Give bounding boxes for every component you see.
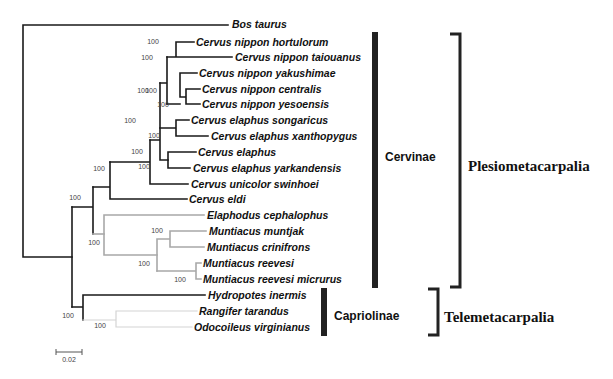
taxon-label: Hydropotes inermis <box>208 289 307 301</box>
taxon-labels: Bos taurusCervus nippon hortulorumCervus… <box>189 18 361 333</box>
taxon-label: Cervus nippon yakushimae <box>199 67 336 79</box>
branch <box>150 83 168 160</box>
scale-bar: 0.02 <box>56 349 82 363</box>
support-value: 100 <box>148 132 160 139</box>
clade-bar <box>372 32 378 288</box>
group-bracket <box>428 289 438 335</box>
taxon-label: Cervus nippon yesoensis <box>202 98 329 110</box>
taxon-label: Elaphodus cephalophus <box>207 209 329 221</box>
branch <box>104 215 204 255</box>
support-value: 100 <box>157 101 169 108</box>
taxon-label: Cervus nippon hortulorum <box>196 36 328 48</box>
taxon-label: Rangifer tarandus <box>199 305 289 317</box>
support-value: 100 <box>88 239 100 246</box>
taxon-label: Odocoileus virginianus <box>194 321 310 333</box>
branch <box>110 140 188 184</box>
support-value: 100 <box>145 87 157 94</box>
branch <box>168 152 196 168</box>
taxon-label: Cervus nippon centralis <box>202 83 322 95</box>
taxon-label: Cervus elaphus songaricus <box>191 114 328 126</box>
support-value: 100 <box>131 148 143 155</box>
branch <box>157 231 206 271</box>
support-value: 100 <box>93 165 105 172</box>
support-value: 100 <box>151 227 163 234</box>
support-value: 100 <box>124 117 136 124</box>
support-value: 100 <box>69 194 81 201</box>
clade-label: Capriolinae <box>334 309 400 323</box>
branch <box>72 295 205 320</box>
support-value: 100 <box>62 312 74 319</box>
taxon-label: Cervus unicolor swinhoei <box>191 178 320 190</box>
group-label: Telemetacarpalia <box>444 309 555 325</box>
support-value: 100 <box>138 260 150 267</box>
branch <box>167 73 200 104</box>
clade-bar <box>321 288 327 336</box>
taxon-label: Muntiacus reevesi micrurus <box>203 273 342 285</box>
support-value: 100 <box>174 276 186 283</box>
taxon-label: Cervus nippon taiouanus <box>235 51 361 63</box>
scale-bar-label: 0.02 <box>62 356 76 363</box>
branch <box>23 25 228 257</box>
taxon-label: Muntiacus crinifrons <box>207 241 310 253</box>
taxon-label: Muntiacus muntjak <box>209 225 305 237</box>
support-value: 100 <box>147 38 159 45</box>
taxon-label: Cervus eldi <box>189 193 247 205</box>
support-value: 100 <box>141 54 153 61</box>
group-bracket <box>450 34 460 287</box>
support-value: 100 <box>138 163 150 170</box>
taxon-label: Bos taurus <box>232 18 287 30</box>
subfamily-clade-bars: CervinaeCapriolinae <box>321 32 436 336</box>
group-label: Plesiometacarpalia <box>468 158 590 174</box>
taxon-label: Cervus elaphus <box>198 146 276 158</box>
group-brackets: PlesiometacarpaliaTelemetacarpalia <box>428 34 590 335</box>
taxon-label: Cervus elaphus yarkandensis <box>193 162 341 174</box>
branch <box>160 57 167 104</box>
scale-bar-line <box>56 349 82 355</box>
taxon-label: Muntiacus reevesi <box>203 257 295 269</box>
clade-label: Cervinae <box>385 150 436 164</box>
taxon-label: Cervus elaphus xanthopygus <box>211 130 358 142</box>
phylogenetic-tree: 1001001001001001001001001001001001001001… <box>0 0 613 379</box>
support-value: 100 <box>94 322 106 329</box>
